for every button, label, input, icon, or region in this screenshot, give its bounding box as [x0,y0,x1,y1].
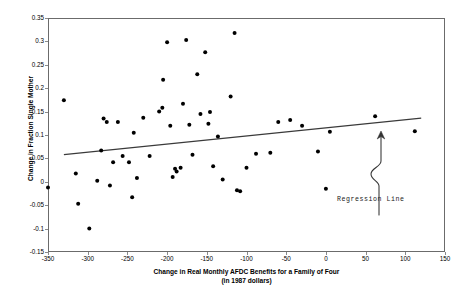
y-tick-mark [45,18,48,19]
x-tick-mark [326,252,327,255]
x-tick-mark [366,252,367,255]
x-axis-tick-labels: -350-300-250-200-150-100-50050100150 [0,256,458,268]
y-tick-mark [45,65,48,66]
regression-line-annotation-label: Regression Line [337,196,405,203]
y-tick-label: 0.25 [4,62,44,68]
y-tick-mark [45,88,48,89]
y-tick-mark [45,135,48,136]
x-tick-label: 0 [324,256,328,262]
x-tick-mark [207,252,208,255]
y-tick-label: 0.3 [4,38,44,44]
y-axis-title: Change in Fraction Single Mother [27,39,34,219]
x-tick-label: -250 [121,256,134,262]
y-tick-mark [45,158,48,159]
y-tick-mark [45,41,48,42]
y-tick-mark [45,112,48,113]
x-axis-title: Change in Real Monthly AFDC Benefits for… [48,268,445,286]
y-tick-label: -0.15 [4,249,44,255]
x-tick-label: 150 [440,256,451,262]
x-tick-mark [127,252,128,255]
y-tick-mark [45,229,48,230]
y-tick-label: 0.15 [4,108,44,114]
x-tick-label: -350 [42,256,55,262]
x-tick-label: -200 [161,256,174,262]
y-tick-label: 0.35 [4,15,44,21]
y-tick-mark [45,182,48,183]
y-axis-tick-labels: -0.15-0.1-0.0500.050.10.150.20.250.30.35 [0,0,44,298]
x-tick-label: 100 [400,256,411,262]
x-tick-mark [48,252,49,255]
x-tick-mark [247,252,248,255]
y-tick-label: -0.1 [4,225,44,231]
x-tick-mark [88,252,89,255]
x-tick-mark [286,252,287,255]
y-tick-label: 0.05 [4,155,44,161]
x-tick-label: -50 [282,256,291,262]
x-tick-mark [445,252,446,255]
y-tick-label: 0.2 [4,85,44,91]
x-axis-title-line2: (in 1987 dollars) [48,277,445,286]
plot-frame [48,18,445,252]
x-tick-label: -300 [81,256,94,262]
y-tick-label: -0.05 [4,202,44,208]
y-tick-label: 0 [4,179,44,185]
x-tick-label: -100 [240,256,253,262]
y-tick-mark [45,205,48,206]
x-tick-label: -150 [200,256,213,262]
x-tick-mark [167,252,168,255]
x-tick-label: 50 [362,256,369,262]
scatter-chart: -0.15-0.1-0.0500.050.10.150.20.250.30.35… [0,0,458,298]
y-tick-label: 0.1 [4,132,44,138]
x-tick-mark [405,252,406,255]
x-axis-title-line1: Change in Real Monthly AFDC Benefits for… [154,268,340,275]
